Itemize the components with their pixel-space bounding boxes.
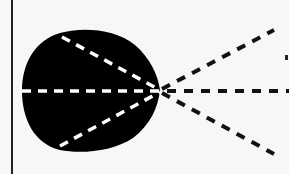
ray-diagram <box>0 0 289 174</box>
edge-mark <box>285 55 288 60</box>
outer-dashed-rays <box>162 30 289 154</box>
diagram-canvas <box>0 0 289 174</box>
